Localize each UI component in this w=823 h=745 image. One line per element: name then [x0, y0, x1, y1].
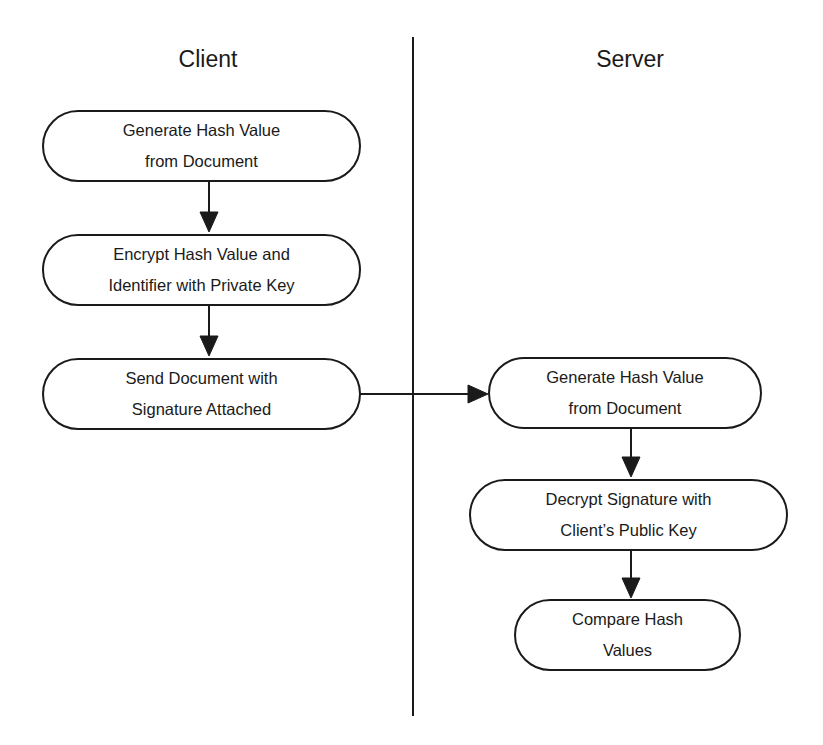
step-label: Generate Hash Value from Document — [546, 362, 703, 424]
server-step-generate-hash: Generate Hash Value from Document — [488, 357, 762, 429]
server-step-compare-hash: Compare Hash Values — [514, 599, 741, 671]
arrowhead-icon — [468, 385, 488, 403]
step-label: Decrypt Signature with Client’s Public K… — [546, 484, 712, 546]
step-label: Generate Hash Value from Document — [123, 115, 280, 177]
arrowhead-icon — [622, 578, 640, 598]
step-label: Compare Hash Values — [572, 604, 683, 666]
client-step-encrypt-hash: Encrypt Hash Value and Identifier with P… — [42, 234, 361, 306]
arrowhead-icon — [622, 457, 640, 477]
arrowhead-icon — [200, 212, 218, 232]
step-label: Encrypt Hash Value and Identifier with P… — [108, 239, 294, 301]
server-step-decrypt-signature: Decrypt Signature with Client’s Public K… — [469, 479, 788, 551]
step-label: Send Document with Signature Attached — [125, 363, 277, 425]
client-step-generate-hash: Generate Hash Value from Document — [42, 110, 361, 182]
arrowhead-icon — [200, 336, 218, 356]
client-step-send-document: Send Document with Signature Attached — [42, 358, 361, 430]
